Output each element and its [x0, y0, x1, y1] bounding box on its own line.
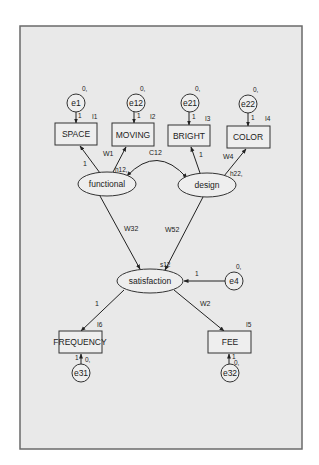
functional-variance-label: h12, — [115, 166, 128, 173]
svg-text:e4: e4 — [229, 276, 239, 286]
e31-path-label: 1 — [75, 354, 79, 361]
e21-mean-label: 0, — [195, 85, 201, 92]
svg-text:design: design — [194, 180, 219, 190]
svg-text:e1: e1 — [71, 98, 81, 108]
e4-mean-label: 0, — [236, 263, 242, 270]
e32-mean-label: 0, — [234, 359, 240, 366]
e12-mean-label: 0, — [140, 85, 146, 92]
diagram-frame — [20, 26, 302, 449]
path-design-color-label: W4 — [223, 153, 234, 160]
e4-path-label: 1 — [195, 270, 199, 277]
svg-text:e32: e32 — [223, 368, 237, 378]
svg-text:BRIGHT: BRIGHT — [173, 131, 205, 141]
satisfaction-variance-label: s12 — [160, 261, 171, 268]
path-functional-space-label: 1 — [83, 160, 87, 167]
covariance-label: C12 — [149, 149, 162, 156]
path-satisfaction-fee-label: W2 — [200, 300, 211, 307]
svg-text:e12: e12 — [129, 98, 143, 108]
e22-mean-label: 0, — [253, 86, 259, 93]
path-functional-moving-label: W1 — [103, 150, 114, 157]
fee-intercept: I5 — [246, 321, 252, 328]
frequency-intercept: I6 — [97, 321, 103, 328]
path-design-satisfaction-label: W52 — [165, 226, 180, 233]
svg-text:COLOR: COLOR — [233, 132, 263, 142]
bright-intercept: I3 — [205, 115, 211, 122]
svg-text:e31: e31 — [74, 368, 88, 378]
e12-path-label: 1 — [137, 112, 141, 119]
path-satisfaction-frequency-label: 1 — [95, 300, 99, 307]
design-variance-label: h22, — [230, 170, 243, 177]
e21-path-label: 1 — [192, 113, 196, 120]
svg-text:e21: e21 — [183, 98, 197, 108]
path-design-bright-label: 1 — [199, 151, 203, 158]
svg-text:SPACE: SPACE — [62, 129, 91, 139]
svg-text:MOVING: MOVING — [116, 130, 150, 140]
error-term-e31[interactable]: e31 1 0, — [72, 354, 91, 382]
e31-mean-label: 0, — [85, 356, 91, 363]
svg-text:e22: e22 — [241, 99, 255, 109]
svg-text:functional: functional — [89, 179, 125, 189]
sem-diagram: e1 0, 1 e12 0, 1 e21 0, 1 e22 0, 1 SPACE… — [0, 0, 319, 465]
moving-intercept: I2 — [150, 113, 156, 120]
svg-text:FREQUENCY: FREQUENCY — [53, 337, 107, 347]
e22-path-label: 1 — [251, 114, 255, 121]
svg-text:FEE: FEE — [222, 337, 239, 347]
space-intercept: I1 — [92, 113, 98, 120]
color-intercept: I4 — [265, 115, 271, 122]
e1-mean-label: 0, — [82, 85, 88, 92]
path-functional-satisfaction-label: W32 — [124, 225, 139, 232]
svg-text:satisfaction: satisfaction — [129, 276, 172, 286]
e1-path-label: 1 — [78, 112, 82, 119]
